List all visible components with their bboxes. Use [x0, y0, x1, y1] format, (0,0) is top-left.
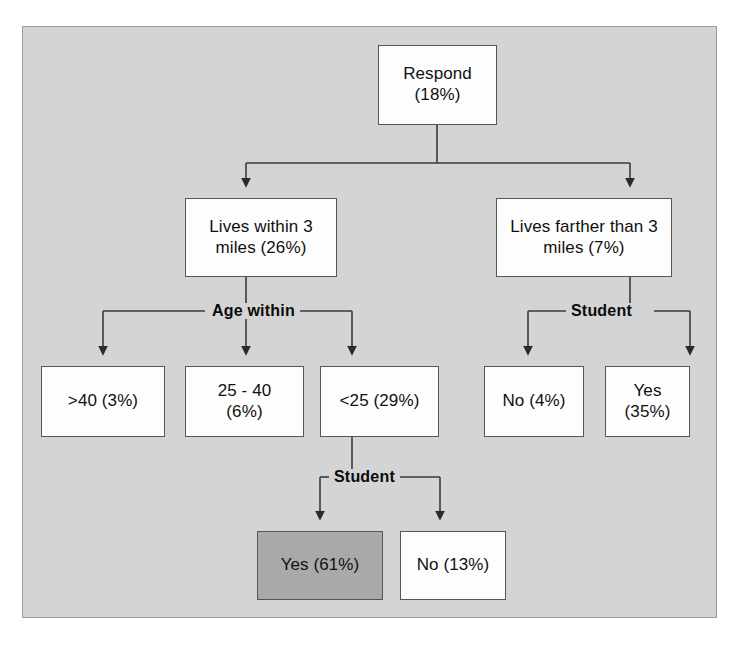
node-under-25[interactable]: <25 (29%) — [320, 366, 439, 437]
node-lives-farther-than-3-miles[interactable]: Lives farther than 3 miles (7%) — [496, 198, 672, 277]
node-respond[interactable]: Respond (18%) — [378, 45, 497, 125]
node-student-no[interactable]: No (13%) — [400, 531, 506, 600]
node-farther-yes[interactable]: Yes (35%) — [605, 366, 690, 437]
edge-label-student-bottom: Student — [329, 469, 400, 485]
decision-tree-figure: Respond (18%) Lives within 3 miles (26%)… — [0, 0, 735, 645]
node-lives-within-3-miles[interactable]: Lives within 3 miles (26%) — [185, 198, 337, 277]
node-age-25-40[interactable]: 25 - 40 (6%) — [185, 366, 304, 437]
edge-label-student-right: Student — [566, 303, 637, 319]
node-over-40[interactable]: >40 (3%) — [41, 366, 165, 437]
edge-label-age-within: Age within — [207, 303, 300, 319]
node-student-yes[interactable]: Yes (61%) — [257, 531, 383, 600]
node-farther-no[interactable]: No (4%) — [484, 366, 584, 437]
figure-frame — [22, 26, 717, 618]
